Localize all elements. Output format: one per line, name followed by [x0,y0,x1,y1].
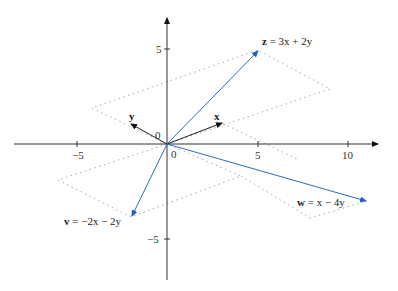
vector-x [167,123,222,144]
vector-z-label: z = 3x + 2y [262,35,313,47]
vector-w-label: w = x − 4y [297,196,345,208]
vector-v [132,144,167,216]
parallelogram-z [92,50,330,144]
vector-diagram: −5 5 10 5 −5 0 0 x y z = 3x + 2y v = −2x… [0,0,398,291]
vector-z [167,51,258,144]
y-tick-label-neg5: −5 [147,233,159,245]
vector-y-label: y [129,110,135,122]
origin-label-lower: 0 [171,148,177,160]
vector-v-label: v = −2x − 2y [64,215,122,227]
y-tick-label-5: 5 [156,43,162,55]
x-axis [14,141,378,147]
x-tick-label-neg5: −5 [72,149,84,161]
x-tick-label-5: 5 [255,149,261,161]
x-tick-label-10: 10 [342,149,354,161]
vector-y [131,124,167,144]
vector-x-label: x [214,110,220,122]
vector-w [167,144,366,201]
